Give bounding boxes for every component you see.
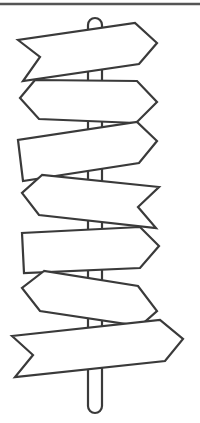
sign-1-arrow-right — [18, 23, 157, 81]
signpost-artwork — [0, 0, 200, 423]
sign-5-arrow-right — [22, 227, 159, 273]
sign-7-arrow-right — [12, 320, 183, 377]
sign-6-arrow-left — [22, 271, 157, 326]
sign-4-arrow-left — [22, 175, 159, 228]
signpost-illustration — [0, 0, 200, 423]
sign-2-arrow-right — [20, 80, 157, 123]
